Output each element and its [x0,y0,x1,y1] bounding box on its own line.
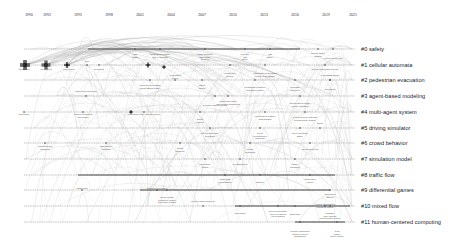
citation-node-icon[interactable] [336,221,338,223]
citation-node-icon[interactable] [264,64,266,66]
citation-node-icon[interactable] [214,95,216,97]
year-label: 1990 [25,13,33,17]
node-keyword-label: pedestrian evacuationsocial force model [253,73,276,78]
cluster-label: #9 differential games [361,187,414,193]
node-keyword-label: differentialgames [325,194,336,199]
citation-node-icon[interactable] [239,205,241,207]
node-keyword-label: aggregationproblem [100,146,113,151]
citation-node-icon[interactable] [294,158,296,160]
node-keyword-label: reinforcement learningautonomous vehicle [293,117,317,122]
year-label: 2007 [198,13,206,17]
citation-node-icon[interactable] [98,64,100,66]
node-keyword-label: agentsystem [196,119,204,124]
node-keyword-label: highwaylane-changemixed traffic control [320,213,341,221]
node-keyword-label: integration [18,69,29,72]
citation-node-icon[interactable] [179,142,181,144]
citation-node-icon[interactable] [299,221,301,223]
citation-node-icon[interactable] [269,48,271,50]
node-keyword-label: risksafety [267,54,273,59]
citation-node-icon[interactable] [299,127,301,129]
node-keyword-label: evacuationmodel [169,75,181,80]
node-keyword-label: connectivity [63,69,76,72]
citation-node-icon[interactable] [319,127,321,129]
node-keyword-label: traffic flowmodel [305,179,316,184]
citation-node-icon[interactable] [199,111,201,113]
citation-node-icon[interactable] [201,79,203,81]
citation-node-icon[interactable] [149,79,151,81]
citation-node-icon[interactable] [309,142,311,144]
cluster-label: #4 multi-agent system [361,109,417,115]
citation-node-icon[interactable] [44,142,46,144]
node-keyword-label: layered warm behavior [191,201,215,204]
citation-node-icon[interactable] [294,205,296,207]
citation-node-icon[interactable] [134,48,136,50]
cluster-label: #5 driving simulator [361,125,411,131]
year-label: 2004 [167,13,175,17]
node-keyword-label: simulationmodel [200,164,211,169]
citation-node-icon[interactable] [227,95,229,97]
citation-node-icon[interactable] [329,79,331,81]
citation-node-icon[interactable] [68,64,70,66]
node-keyword-label: crowd modeling [302,149,319,152]
citation-node-icon[interactable] [204,158,206,160]
node-keyword-label: driving simulatorbehavior [201,133,218,138]
node-keyword-label: modelvalidation [290,164,300,169]
cluster-label: #11 human-centered computing [361,219,441,225]
citation-node-icon[interactable] [254,79,256,81]
node-keyword-label: mixed flow safetycircle predictioncar-fo… [269,211,287,219]
citation-node-icon[interactable] [202,205,204,207]
citation-node-icon[interactable] [204,48,206,50]
node-keyword-label: pedestrian [40,69,51,72]
year-label: 1995 [74,13,82,17]
node-keyword-label: dynamics [94,69,104,72]
citation-node-icon[interactable] [249,142,251,144]
citation-node-icon[interactable] [299,95,301,97]
citation-node-icon[interactable] [309,174,311,176]
year-label: 2001 [136,13,144,17]
cluster-label: #6 crowd behavior [361,140,408,146]
cited-node-icon[interactable] [162,65,166,69]
node-keyword-label: cellular automaton model [312,69,339,72]
node-keyword-label: trustfusiondriver model [330,231,343,239]
citation-node-icon[interactable] [224,174,226,176]
node-keyword-label: multi-agent systemcoordination [255,116,275,121]
citation-node-icon[interactable] [264,111,266,113]
citation-node-icon[interactable] [317,48,319,50]
node-keyword-label: uncertainty [234,213,246,216]
citation-node-icon[interactable] [244,48,246,50]
node-keyword-label: human computinghuman-vehicleautomation [290,231,309,239]
citation-node-icon[interactable] [159,48,161,50]
citation-node-icon[interactable] [209,127,211,129]
cluster-label: #7 simulation model [361,156,412,162]
citation-node-icon[interactable] [294,79,296,81]
cited-node-icon[interactable] [146,63,151,68]
year-label: 2010 [229,13,237,17]
node-keyword-label: crowddynamics [245,149,255,154]
node-keyword-label: agent-based modelmodel validation [290,103,310,108]
citation-node-icon[interactable] [105,142,107,144]
citation-node-icon[interactable] [229,64,231,66]
node-keyword-label: simulation [19,114,30,117]
citation-node-icon[interactable] [332,48,334,50]
node-keyword-label: decision making model [203,105,227,108]
node-keyword-label: vehicle automationintelligent model [315,204,335,209]
citation-node-icon[interactable] [86,64,88,66]
citation-node-icon[interactable] [259,127,261,129]
node-keyword-label: traffic jam [290,214,300,217]
citation-node-icon[interactable] [277,205,279,207]
citation-node-icon[interactable] [324,64,326,66]
year-label: 2021 [349,13,357,17]
citation-node-icon[interactable] [329,189,331,191]
node-keyword-label: traffic simulation tool [75,91,97,94]
citation-node-icon[interactable] [239,158,241,160]
citation-node-icon[interactable] [45,64,47,66]
citation-node-icon[interactable] [259,174,261,176]
citation-node-icon[interactable] [304,111,306,113]
cluster-label: #3 agent-based modeling [361,93,425,99]
node-keyword-label: managementmodeling [38,146,52,151]
citation-node-icon[interactable] [23,64,25,66]
citation-node-icon[interactable] [85,95,87,97]
cluster-label: #1 cellular automata [361,62,412,68]
node-keyword-label: crowd flowdensity [224,73,235,78]
node-keyword-label: agentmodel [199,85,206,90]
